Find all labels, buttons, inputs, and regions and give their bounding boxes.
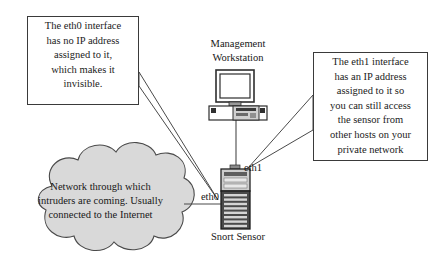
eth1-callout-line-2: has an IP address (314, 70, 427, 85)
eth1-callout-line-5: the sensor from (314, 113, 427, 128)
cloud-label: Network through which intruders are comi… (13, 180, 188, 222)
eth1-callout-line-3: assigned to it so (314, 84, 427, 99)
tower-server-icon (221, 165, 250, 229)
desktop-computer-icon (209, 70, 267, 120)
sensor-label: Snort Sensor (186, 230, 290, 244)
workstation-label-line-2: Workstation (186, 51, 290, 65)
eth1-callout-line-1: The eth1 interface (314, 55, 427, 70)
eth0-callout-box: The eth0 interface has no IP address ass… (27, 16, 139, 105)
cloud-label-line-2: intruders are coming. Usually (13, 194, 188, 208)
cloud-label-line-3: connected to the Internet (13, 208, 188, 222)
workstation-label-line-1: Management (186, 37, 290, 51)
eth0-callout-line-4: which makes it (28, 63, 138, 78)
eth0-callout-line-3: assigned to it, (28, 48, 138, 63)
workstation-label: Management Workstation (186, 37, 290, 64)
eth1-interface-label: eth1 (244, 161, 278, 175)
eth1-callout-line-4: you can still access (314, 99, 427, 114)
eth1-callout-box: The eth1 interface has an IP address ass… (313, 52, 428, 161)
eth0-callout-line-2: has no IP address (28, 34, 138, 49)
diagram-canvas: The eth0 interface has no IP address ass… (0, 0, 435, 277)
cloud-label-line-1: Network through which (13, 180, 188, 194)
eth0-callout-line-5: invisible. (28, 77, 138, 92)
eth1-callout-line-7: private network (314, 143, 427, 158)
eth0-interface-label: eth0 (185, 190, 219, 204)
eth0-callout-line-1: The eth0 interface (28, 19, 138, 34)
eth1-callout-line-6: other hosts on your (314, 128, 427, 143)
